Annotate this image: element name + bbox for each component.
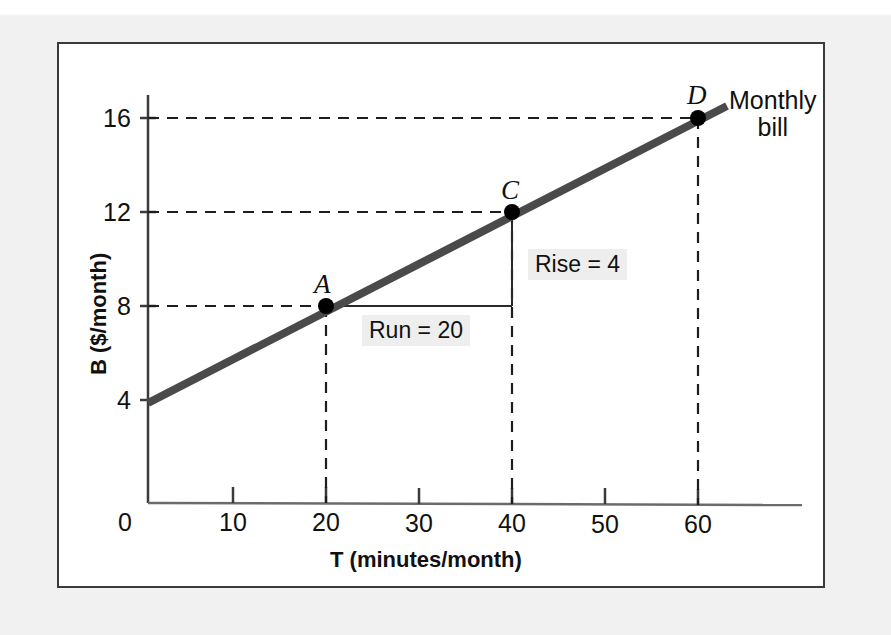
- x-tick-label-60: 60: [684, 510, 712, 539]
- y-tick-label-8: 8: [117, 292, 131, 321]
- figure-root: 16 12 8 4 0 10 20 30 40 50 60 B ($/month…: [0, 0, 891, 635]
- x-tick-label-20: 20: [312, 508, 340, 537]
- series-callout-monthly-bill: Monthly bill: [729, 87, 817, 141]
- y-tick-label-4: 4: [117, 386, 131, 415]
- x-tick-label-50: 50: [591, 510, 619, 539]
- point-label-a: A: [314, 269, 331, 300]
- point-label-c: C: [501, 175, 519, 206]
- x-axis-line: [148, 503, 802, 505]
- point-label-d: D: [687, 80, 707, 111]
- y-tick-label-12: 12: [103, 198, 131, 227]
- data-point-c: [504, 204, 520, 220]
- x-tick-label-10: 10: [219, 508, 247, 537]
- x-tick-label-40: 40: [498, 509, 526, 538]
- x-axis-title: T (minutes/month): [330, 547, 522, 573]
- monthly-bill-line: [148, 106, 727, 403]
- run-annotation-label: Run = 20: [362, 315, 470, 346]
- x-tick-label-0: 0: [118, 508, 132, 537]
- rise-annotation-label: Rise = 4: [528, 249, 627, 280]
- data-point-a: [318, 298, 334, 314]
- y-tick-label-16: 16: [103, 104, 131, 133]
- y-axis-title: B ($/month): [86, 253, 112, 375]
- x-tick-label-30: 30: [405, 509, 433, 538]
- data-point-d: [690, 110, 706, 126]
